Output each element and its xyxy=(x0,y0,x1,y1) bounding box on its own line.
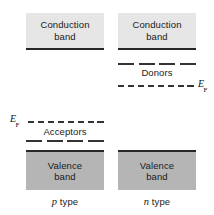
fermi-dash xyxy=(158,85,164,87)
right-conduction-band-box: Conduction band xyxy=(118,13,196,48)
left-fermi-level-line xyxy=(28,121,104,123)
donor-dash xyxy=(180,63,196,65)
fermi-dash xyxy=(68,121,74,123)
left-conduction-band-label-line1: Conduction xyxy=(40,19,89,30)
band-diagram-figure: Conduction band EF Acceptors Valence ban… xyxy=(0,0,214,215)
left-valence-band-label-line1: Valence xyxy=(48,160,82,171)
fermi-dash xyxy=(187,85,193,87)
acceptor-dash xyxy=(67,140,83,142)
fermi-dash xyxy=(168,85,174,87)
donor-level-label: Donors xyxy=(118,67,196,78)
acceptor-dash xyxy=(47,140,63,142)
fermi-dash xyxy=(97,121,103,123)
left-panel-type-caption: p type xyxy=(26,196,104,207)
left-conduction-band-box: Conduction band xyxy=(26,13,104,48)
fermi-dash xyxy=(38,121,44,123)
fermi-dash xyxy=(138,85,144,87)
right-fermi-level-label: EF xyxy=(198,78,208,92)
donor-level-line xyxy=(118,63,196,65)
left-valence-band-label-line2: band xyxy=(54,171,76,182)
left-valence-band-box: Valence band xyxy=(26,152,104,190)
right-fermi-level-line xyxy=(118,85,194,87)
left-conduction-band-label-line2: band xyxy=(54,31,76,42)
fermi-dash xyxy=(128,85,134,87)
fermi-dash xyxy=(78,121,84,123)
left-fermi-level-label: EF xyxy=(10,113,20,127)
fermi-dash xyxy=(178,85,184,87)
left-conduction-band-edge xyxy=(26,48,104,50)
acceptor-dash xyxy=(26,140,42,142)
right-valence-band-label-line1: Valence xyxy=(140,160,174,171)
left-fermi-level-subscript: F xyxy=(16,121,20,129)
right-valence-band-box: Valence band xyxy=(118,152,196,190)
right-panel-type-word: type xyxy=(149,196,170,207)
fermi-dash xyxy=(88,121,94,123)
acceptor-dash xyxy=(88,140,104,142)
fermi-dash xyxy=(148,85,154,87)
right-valence-band-label-line2: band xyxy=(146,171,168,182)
right-conduction-band-edge xyxy=(118,48,196,50)
fermi-dash xyxy=(58,121,64,123)
fermi-dash xyxy=(28,121,34,123)
acceptor-level-label: Acceptors xyxy=(26,126,104,137)
donor-dash xyxy=(118,63,134,65)
left-panel-type-word: type xyxy=(57,196,78,207)
right-conduction-band-label-line1: Conduction xyxy=(132,19,181,30)
donor-dash xyxy=(139,63,155,65)
fermi-dash xyxy=(48,121,54,123)
fermi-dash xyxy=(118,85,124,87)
acceptor-level-line xyxy=(26,140,104,142)
right-fermi-level-subscript: F xyxy=(204,86,208,94)
donor-dash xyxy=(159,63,175,65)
right-conduction-band-label-line2: band xyxy=(146,31,168,42)
right-panel-type-caption: n type xyxy=(118,196,196,207)
